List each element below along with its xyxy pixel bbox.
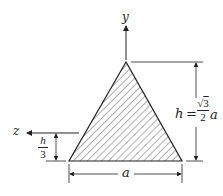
y-axis-label: y [122, 11, 129, 23]
centroid-numerator: h [40, 134, 46, 146]
centroid-denominator: 3 [40, 148, 46, 160]
diagram-canvas [0, 0, 223, 196]
hatched-triangle [69, 62, 182, 161]
height-fraction: √3 2 [197, 98, 209, 123]
sqrt-symbol: √3 [197, 97, 209, 109]
triangle-diagram: y z a h = √3 2 a h 3 [0, 0, 223, 196]
height-denominator: 2 [200, 111, 206, 123]
centroid-offset-fraction: h 3 [38, 135, 48, 160]
height-label-h: h [175, 107, 183, 120]
base-label: a [122, 166, 130, 179]
z-axis-label: z [13, 125, 19, 137]
height-label-a: a [210, 108, 218, 121]
height-label-equals: = [186, 107, 197, 120]
